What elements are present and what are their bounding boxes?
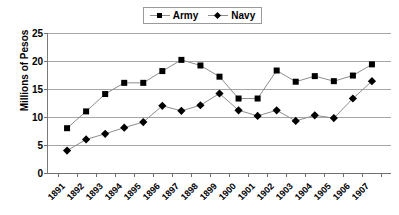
- data-point-navy-1894: [120, 124, 128, 132]
- data-point-army-1895: [140, 80, 146, 86]
- square-marker-icon: [150, 11, 170, 20]
- x-tick-mark: [134, 173, 135, 177]
- x-tick-mark: [172, 173, 173, 177]
- y-tick-label: 5: [37, 140, 43, 151]
- legend-item-army: Army: [150, 11, 199, 21]
- data-point-army-1897: [178, 57, 184, 63]
- data-point-army-1891: [64, 125, 70, 131]
- series-layer: [48, 33, 391, 173]
- data-point-navy-1901: [254, 112, 262, 120]
- x-tick-mark: [305, 173, 306, 177]
- y-tick-label: 0: [37, 168, 43, 179]
- x-tick-mark: [381, 173, 382, 177]
- data-point-army-1893: [102, 91, 108, 97]
- x-tick-mark: [96, 173, 97, 177]
- x-tick-mark: [324, 173, 325, 177]
- x-tick-mark: [58, 173, 59, 177]
- data-point-army-1907: [369, 61, 375, 67]
- legend-label-army: Army: [173, 11, 199, 21]
- data-point-army-1894: [121, 80, 127, 86]
- data-point-army-1900: [236, 96, 242, 102]
- data-point-army-1906: [350, 73, 356, 79]
- data-point-navy-1904: [311, 111, 319, 119]
- data-point-army-1899: [217, 74, 223, 80]
- x-tick-mark: [191, 173, 192, 177]
- y-axis-title: Millions of Pesos: [19, 11, 30, 131]
- x-tick-mark: [229, 173, 230, 177]
- data-point-navy-1903: [292, 117, 300, 125]
- line-chart: Army Navy Millions of Pesos 0510152025 1…: [0, 0, 399, 215]
- data-point-army-1892: [83, 108, 89, 114]
- x-tick-mark: [343, 173, 344, 177]
- x-tick-mark: [77, 173, 78, 177]
- x-tick-mark: [115, 173, 116, 177]
- y-tick-label: 15: [32, 84, 43, 95]
- data-point-army-1902: [274, 68, 280, 74]
- plot-area: 0510152025 18911892189318941895189618971…: [47, 33, 391, 174]
- y-tick-mark: [44, 173, 48, 174]
- y-tick-label: 10: [32, 112, 43, 123]
- diamond-marker-icon: [208, 11, 228, 20]
- data-point-army-1898: [197, 62, 203, 68]
- legend-item-navy: Navy: [208, 11, 255, 21]
- data-point-navy-1902: [273, 106, 281, 114]
- data-point-navy-1898: [196, 101, 204, 109]
- x-tick-mark: [362, 173, 363, 177]
- y-tick-label: 25: [32, 28, 43, 39]
- chart-legend: Army Navy: [143, 7, 262, 24]
- data-point-navy-1897: [177, 107, 185, 115]
- data-point-navy-1893: [101, 130, 109, 138]
- data-point-army-1901: [255, 96, 261, 102]
- x-tick-mark: [286, 173, 287, 177]
- x-tick-mark: [267, 173, 268, 177]
- y-tick-label: 20: [32, 56, 43, 67]
- x-tick-mark: [248, 173, 249, 177]
- data-point-army-1896: [159, 68, 165, 74]
- x-tick-mark: [153, 173, 154, 177]
- data-point-navy-1892: [82, 135, 90, 143]
- data-point-navy-1891: [63, 147, 71, 155]
- legend-label-navy: Navy: [231, 11, 255, 21]
- data-point-army-1903: [293, 79, 299, 85]
- x-tick-mark: [210, 173, 211, 177]
- data-point-army-1905: [331, 78, 337, 84]
- data-point-army-1904: [312, 73, 318, 79]
